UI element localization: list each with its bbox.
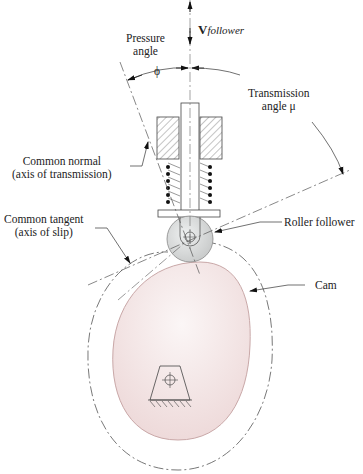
common-normal-leader (130, 142, 148, 166)
guide-block-left (157, 117, 179, 159)
transmission-angle-label: Transmissionangle μ (248, 87, 310, 113)
transmission-angle-arc (312, 122, 343, 174)
cam-label: Cam (315, 279, 337, 292)
pressure-angle-label: Pressureangle (126, 32, 165, 58)
cam-leader (250, 285, 305, 291)
common-tangent-leader (95, 228, 130, 263)
roller-follower-leader (215, 222, 282, 232)
common-tangent-label: Common tangent(axis of slip) (4, 213, 84, 239)
roller-follower-label: Roller follower (284, 216, 355, 229)
phi-symbol: ϕ (154, 65, 160, 78)
cam-body (113, 262, 250, 440)
common-normal-label: Common normal(axis of transmission) (12, 155, 112, 181)
guide-block-right (200, 117, 222, 159)
v-follower-label: Vfollower (198, 23, 244, 37)
